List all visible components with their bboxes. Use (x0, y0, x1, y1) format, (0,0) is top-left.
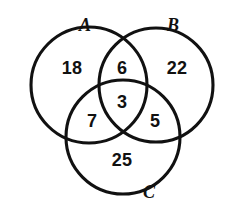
region-count-ab-only: 6 (117, 58, 127, 78)
venn-diagram-canvas: A B C 18 6 22 3 7 5 25 (0, 0, 232, 215)
venn-diagram-figure: A B C 18 6 22 3 7 5 25 (0, 0, 232, 215)
region-count-a-only: 18 (62, 58, 82, 78)
set-label-b: B (166, 15, 179, 35)
region-count-ac-only: 7 (87, 111, 97, 131)
set-label-a: A (78, 15, 91, 35)
region-count-abc: 3 (117, 92, 127, 112)
region-count-b-only: 22 (167, 58, 187, 78)
set-label-c: C (143, 182, 156, 202)
region-count-c-only: 25 (112, 150, 132, 170)
region-count-bc-only: 5 (150, 111, 160, 131)
